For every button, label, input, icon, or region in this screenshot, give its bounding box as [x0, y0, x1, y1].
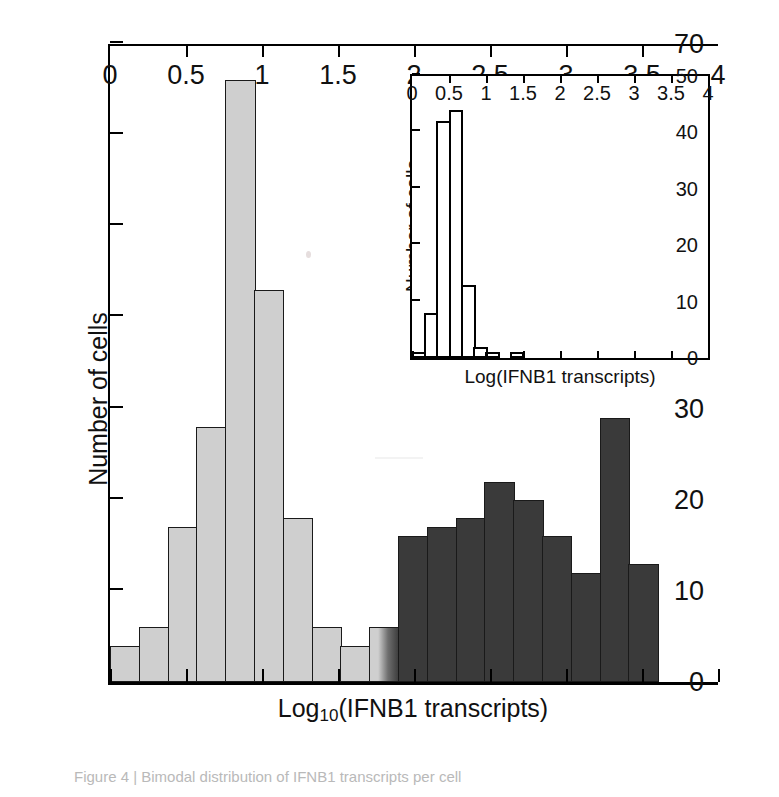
x-axis-tick-label: 2.5: [583, 82, 611, 105]
x-axis-tick: [449, 351, 451, 358]
histogram-bar: [456, 518, 486, 682]
histogram-figure: Number of cells 010203040506070 00.511.5…: [0, 0, 779, 797]
main-x-axis-title: Log10(IFNB1 transcripts): [108, 694, 718, 726]
histogram-bar: [196, 427, 226, 682]
histogram-bar: [283, 518, 313, 682]
x-axis-tick-top: [490, 44, 492, 57]
print-artifact-streak: [375, 457, 423, 459]
histogram-bar: [484, 482, 514, 683]
x-axis-tick: [414, 669, 416, 682]
y-axis-tick: [110, 497, 123, 499]
x-axis-tick-top: [338, 44, 340, 57]
x-axis-tick: [338, 669, 340, 682]
x-axis-tick-top: [262, 44, 264, 57]
x-axis-tick: [110, 669, 112, 682]
y-axis-tick: [110, 588, 123, 590]
y-axis-tick-label: 0: [689, 669, 704, 696]
x-axis-tick-label: 1: [254, 60, 269, 91]
inset-chart: Number of cells 01020304050 00.511.522.5…: [355, 60, 750, 392]
x-axis-tick-label: 0.5: [435, 82, 463, 105]
y-axis-tick: [412, 299, 420, 301]
histogram-bar: [369, 627, 399, 682]
histogram-bar: [340, 646, 370, 682]
inset-plot-area: 01020304050 00.511.522.533.54: [410, 74, 710, 360]
y-axis-tick-label: 10: [674, 577, 704, 604]
x-axis-tick-label: 4: [702, 82, 713, 105]
histogram-bar: [513, 500, 543, 682]
histogram-bar: [225, 80, 255, 682]
x-axis-tick-label: 2: [554, 82, 565, 105]
main-x-axis-title-rest: (IFNB1 transcripts): [338, 694, 548, 722]
x-axis-tick: [566, 669, 568, 682]
x-axis-tick-label: 3.5: [657, 82, 685, 105]
y-axis-tick: [412, 186, 420, 188]
y-axis-tick: [110, 406, 123, 408]
y-axis-tick-label: 70: [674, 31, 704, 58]
x-axis-tick: [486, 351, 488, 358]
y-axis-tick: [110, 132, 123, 134]
histogram-bar: [427, 527, 457, 682]
histogram-bar: [398, 536, 428, 682]
x-axis-tick: [671, 351, 673, 358]
x-axis-tick-label: 0: [102, 60, 117, 91]
y-axis-tick: [110, 314, 123, 316]
histogram-bar: [110, 646, 140, 682]
y-axis-tick-label: 10: [676, 290, 698, 313]
x-axis-tick: [560, 351, 562, 358]
y-axis-tick-label: 20: [674, 486, 704, 513]
figure-caption: Figure 4 | Bimodal distribution of IFNB1…: [74, 768, 714, 785]
y-axis-tick: [412, 129, 420, 131]
histogram-bar: [254, 290, 284, 682]
y-axis-tick: [110, 41, 123, 43]
y-axis-tick-label: 30: [674, 395, 704, 422]
histogram-bar: [168, 527, 198, 682]
main-x-axis-title-subscript: 10: [320, 706, 339, 725]
x-axis-tick: [523, 351, 525, 358]
x-axis-tick-label: 0.5: [167, 60, 205, 91]
x-axis-tick-top: [642, 44, 644, 57]
x-axis-tick-top: [566, 44, 568, 57]
x-axis-tick: [642, 669, 644, 682]
inset-bar-group: [412, 76, 708, 358]
x-axis-tick: [490, 669, 492, 682]
y-axis-tick: [412, 242, 420, 244]
histogram-bar: [542, 536, 572, 682]
x-axis-tick: [708, 351, 710, 358]
y-axis-tick: [110, 223, 123, 225]
histogram-bar: [139, 627, 169, 682]
x-axis-tick-label: 1.5: [319, 60, 357, 91]
x-axis-tick: [262, 669, 264, 682]
x-axis-tick: [412, 351, 414, 358]
histogram-bar: [600, 418, 630, 682]
x-axis-tick: [634, 351, 636, 358]
x-axis-tick: [597, 351, 599, 358]
x-axis-tick-label: 1.5: [509, 82, 537, 105]
x-axis-tick-label: 1: [480, 82, 491, 105]
x-axis-tick-label: 0: [406, 82, 417, 105]
y-axis-tick-label: 40: [676, 121, 698, 144]
print-artifact: [306, 251, 311, 258]
x-axis-tick: [186, 669, 188, 682]
main-x-axis-title-base: Log: [278, 694, 320, 722]
y-axis-tick-label: 30: [676, 177, 698, 200]
y-axis-tick: [412, 73, 420, 75]
x-axis-tick-label: 3: [628, 82, 639, 105]
y-axis-tick-label: 20: [676, 234, 698, 257]
inset-x-axis-title: Log(IFNB1 transcripts): [410, 366, 710, 388]
x-axis-tick-top: [186, 44, 188, 57]
x-axis-tick: [718, 669, 720, 682]
histogram-bar: [628, 564, 658, 682]
histogram-bar: [571, 573, 601, 682]
x-axis-tick-top: [414, 44, 416, 57]
